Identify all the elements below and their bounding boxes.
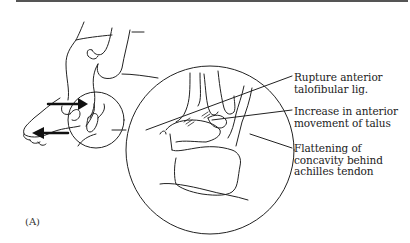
label-line: Flattening of <box>294 143 383 155</box>
panel-label: (A) <box>25 216 40 227</box>
label-line: talofibular lig. <box>294 84 383 96</box>
label-talus-movement: Increase in anterior movement of talus <box>294 106 398 129</box>
label-achilles-flattening: Flattening of concavity behind achilles … <box>294 143 383 178</box>
leader-line-talus <box>212 110 292 120</box>
label-line: achilles tendon <box>294 166 383 178</box>
label-ruptured-atfl: Rupture anterior talofibular lig. <box>294 72 383 95</box>
ankle-bones-drawing <box>160 71 252 200</box>
label-line: Increase in anterior <box>294 106 398 118</box>
leader-line-atfl <box>146 76 292 130</box>
label-line: Rupture anterior <box>294 72 383 84</box>
label-line: movement of talus <box>294 118 398 130</box>
leader-line-achilles <box>250 134 292 148</box>
magnified-view-circle <box>126 66 294 234</box>
